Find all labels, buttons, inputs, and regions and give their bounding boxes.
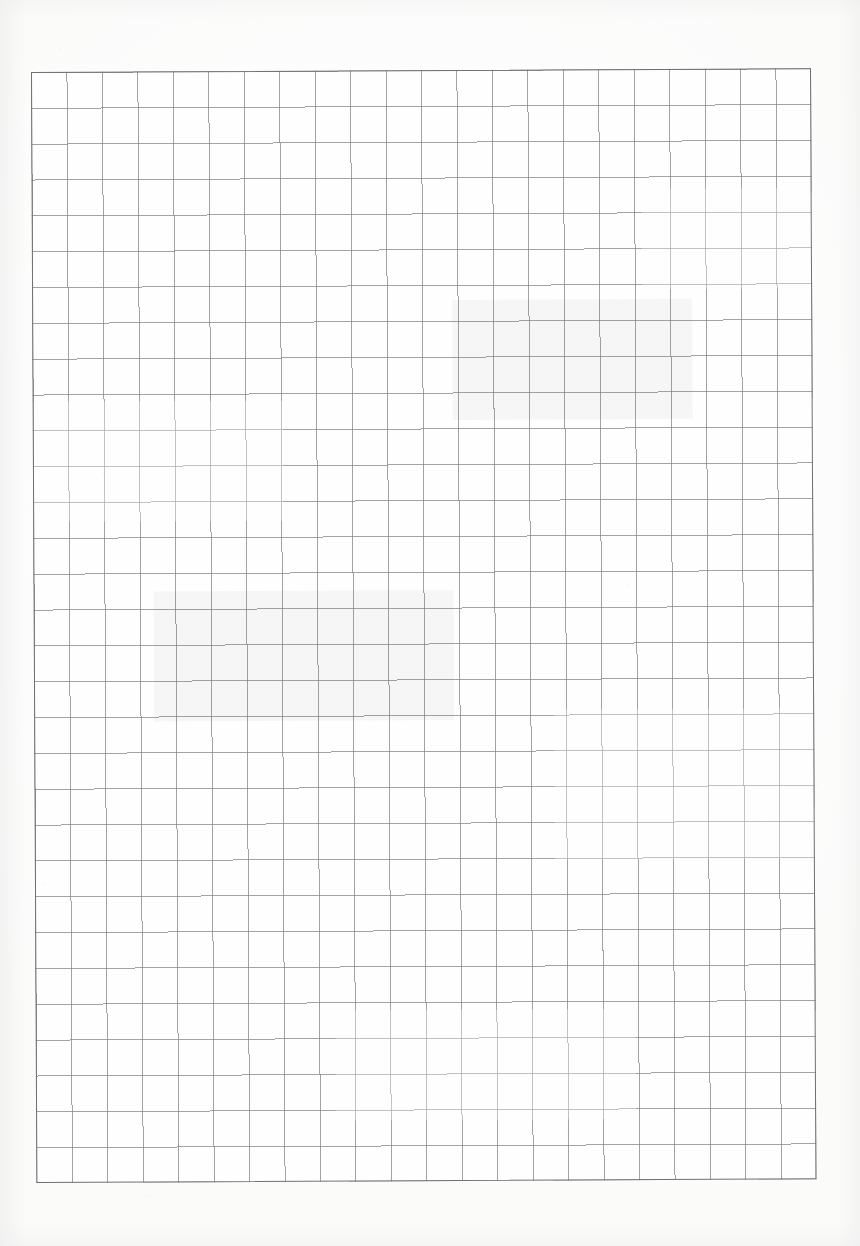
dense-ruling-patch [452,299,693,420]
grid-border [31,68,816,1183]
grid-ruling-area [31,68,816,1183]
faded-ruling-patch [336,1009,637,1120]
faded-ruling-patch [33,401,284,522]
faded-ruling-patch [642,188,812,289]
dense-ruling-patch [154,590,455,721]
graph-paper-grid [31,68,816,1183]
scanned-page [0,0,860,1246]
faded-ruling-patch [554,708,815,859]
